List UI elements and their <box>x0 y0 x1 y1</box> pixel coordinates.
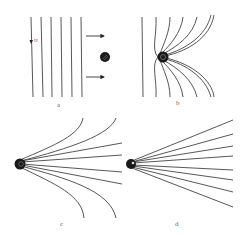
panel-b: b <box>142 15 214 107</box>
sphere-icon <box>158 52 169 63</box>
sphere-icon <box>15 159 26 170</box>
panel-label-b: b <box>176 99 180 107</box>
panel-a: H a <box>30 17 111 109</box>
panel-label-a: a <box>57 101 61 109</box>
field-lines-diagram: H a b c <box>0 0 246 237</box>
field-arrow-icon <box>30 40 34 44</box>
panel-label-c: c <box>60 220 63 228</box>
panel-d: d <box>126 120 233 228</box>
panel-label-d: d <box>175 220 179 228</box>
field-symbol-h: H <box>34 38 38 43</box>
panel-c: c <box>15 118 123 228</box>
sphere-icon <box>126 159 136 169</box>
